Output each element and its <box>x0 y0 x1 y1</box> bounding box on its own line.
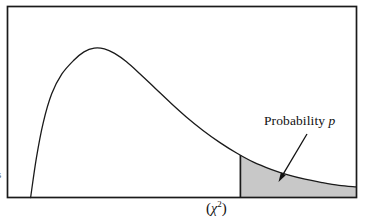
annotation-variable: p <box>329 113 336 128</box>
axis-label-close-paren: ) <box>222 200 227 216</box>
distribution-chart <box>0 0 366 222</box>
shaded-tail-region <box>240 155 356 197</box>
chi-square-tail-figure: Probability p (χ2) s <box>0 0 366 222</box>
annotation-text: Probability <box>264 113 325 128</box>
probability-annotation: Probability p <box>264 113 335 129</box>
x-axis-label: (χ2) <box>206 199 227 217</box>
annotation-arrow-line <box>282 134 307 177</box>
cropped-edge-glyph: s <box>0 167 5 181</box>
plot-frame <box>8 7 357 198</box>
